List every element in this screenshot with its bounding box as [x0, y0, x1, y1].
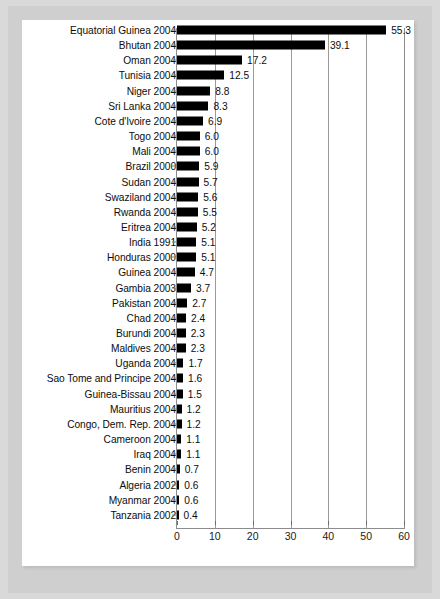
- y-axis-tick: [172, 287, 176, 288]
- y-axis-tick: [172, 454, 176, 455]
- category-label: Congo, Dem. Rep. 2004: [67, 418, 176, 429]
- y-axis-tick: [172, 226, 176, 227]
- y-axis-tick: [172, 363, 176, 364]
- bar: [177, 56, 242, 65]
- category-label: Swaziland 2004: [105, 191, 176, 202]
- y-axis-tick: [172, 45, 176, 46]
- bar-value-label: 0.6: [184, 494, 198, 505]
- category-label: Pakistan 2004: [112, 297, 176, 308]
- y-axis-tick: [172, 408, 176, 409]
- bar-value-label: 5.7: [204, 176, 218, 187]
- x-axis-tick: [177, 521, 178, 525]
- category-label: Iraq 2004: [133, 449, 176, 460]
- category-label: Burundi 2004: [116, 328, 176, 339]
- bar: [177, 404, 182, 413]
- bar: [177, 495, 179, 504]
- y-axis-tick: [172, 166, 176, 167]
- y-axis-tick: [172, 196, 176, 197]
- bar: [177, 86, 210, 95]
- bar: [177, 253, 196, 262]
- category-label: Myanmar 2004: [109, 494, 176, 505]
- x-tick-label: 40: [322, 530, 334, 542]
- bar-value-label: 12.5: [229, 70, 249, 81]
- bar: [177, 207, 198, 216]
- category-label: Tanzania 2002: [110, 509, 176, 520]
- y-axis-tick: [172, 257, 176, 258]
- bar: [177, 283, 191, 292]
- figure-container: Equatorial Guinea 200455.3Bhutan 200439.…: [0, 0, 440, 599]
- category-label: Maldives 2004: [111, 343, 176, 354]
- category-label: Oman 2004: [123, 55, 176, 66]
- bar-value-label: 5.1: [201, 237, 215, 248]
- x-tick-label: 30: [285, 530, 297, 542]
- category-label: Equatorial Guinea 2004: [70, 24, 176, 35]
- y-axis-tick: [172, 105, 176, 106]
- bar: [177, 162, 199, 171]
- y-axis-tick: [172, 514, 176, 515]
- bar: [177, 132, 200, 141]
- bar: [177, 344, 186, 353]
- bar-value-label: 8.3: [213, 100, 227, 111]
- bar-value-label: 6.0: [205, 131, 219, 142]
- x-tick-label: 0: [174, 530, 180, 542]
- y-axis-tick: [172, 348, 176, 349]
- y-axis-tick: [172, 90, 176, 91]
- bar-value-label: 6.0: [205, 146, 219, 157]
- bar: [177, 374, 183, 383]
- y-axis-tick: [172, 302, 176, 303]
- bar: [177, 116, 203, 125]
- bar-value-label: 0.4: [184, 509, 198, 520]
- category-label: Mauritius 2004: [110, 403, 176, 414]
- y-axis-tick: [172, 499, 176, 500]
- bar-value-label: 0.7: [185, 464, 199, 475]
- bar: [177, 41, 325, 50]
- category-label: India 1991: [129, 237, 176, 248]
- bar: [177, 435, 181, 444]
- x-axis-tick: [366, 521, 367, 525]
- bar: [177, 238, 196, 247]
- y-axis-tick: [172, 423, 176, 424]
- category-label: Bhutan 2004: [119, 40, 176, 51]
- bar-value-label: 1.6: [188, 373, 202, 384]
- y-axis-tick: [172, 469, 176, 470]
- bar: [177, 313, 186, 322]
- x-axis-tick: [253, 521, 254, 525]
- bar-value-label: 5.5: [203, 206, 217, 217]
- y-axis-tick: [172, 136, 176, 137]
- bar: [177, 329, 186, 338]
- category-label: Tunisia 2004: [119, 70, 176, 81]
- bar: [177, 268, 195, 277]
- bar-value-label: 6.9: [208, 115, 222, 126]
- bar-value-label: 3.7: [196, 282, 210, 293]
- y-axis-tick: [172, 242, 176, 243]
- category-label: Sao Tome and Principe 2004: [47, 373, 176, 384]
- bar-value-label: 1.5: [188, 388, 202, 399]
- x-tick-label: 50: [360, 530, 372, 542]
- y-axis-tick: [172, 29, 176, 30]
- y-axis-tick: [172, 393, 176, 394]
- y-axis-tick: [172, 378, 176, 379]
- bar: [177, 71, 224, 80]
- category-label: Sudan 2004: [122, 176, 176, 187]
- bar: [177, 419, 182, 428]
- y-axis-tick: [172, 484, 176, 485]
- y-axis-tick: [172, 211, 176, 212]
- x-tick-label: 10: [209, 530, 221, 542]
- bar: [177, 101, 208, 110]
- bar-value-label: 55.3: [391, 24, 411, 35]
- bar-value-label: 2.4: [191, 312, 205, 323]
- bar: [177, 25, 386, 34]
- bar: [177, 359, 183, 368]
- category-label: Rwanda 2004: [114, 206, 176, 217]
- bar-value-label: 5.2: [202, 221, 216, 232]
- bar: [177, 389, 183, 398]
- y-axis-tick: [172, 317, 176, 318]
- category-label: Chad 2004: [127, 312, 176, 323]
- bar: [177, 192, 198, 201]
- y-axis-tick: [172, 333, 176, 334]
- x-tick-label: 60: [398, 530, 410, 542]
- bar-value-label: 1.1: [186, 449, 200, 460]
- category-label: Honduras 2000: [107, 252, 176, 263]
- y-axis-tick: [172, 151, 176, 152]
- x-axis-tick: [328, 521, 329, 525]
